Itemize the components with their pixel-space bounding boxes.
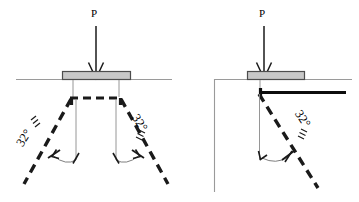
load-label-left: P <box>91 8 97 19</box>
right-panel <box>214 26 352 192</box>
wedge-plane-left <box>24 99 71 184</box>
load-arrow-right <box>257 26 272 79</box>
figure-canvas <box>0 0 359 202</box>
load-arrow-left <box>89 26 104 79</box>
wedge-plane <box>259 94 318 188</box>
angle-arc-right <box>116 156 139 162</box>
angle-arc-left <box>54 156 77 162</box>
figure-root: P P 32° 32° 32° <box>0 0 359 202</box>
hatch-marks-left <box>31 116 40 127</box>
wedge-plane-right <box>121 99 168 184</box>
left-panel <box>16 26 172 184</box>
footing-plate <box>63 72 131 80</box>
load-label-right: P <box>259 8 265 19</box>
hatch-marks <box>298 129 307 139</box>
footing-plate <box>248 72 305 80</box>
